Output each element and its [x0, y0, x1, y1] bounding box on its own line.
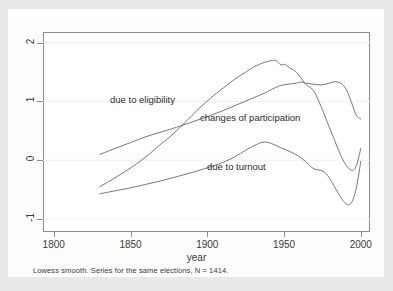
- x-tick-mark: [131, 232, 132, 237]
- curve-due-to-turnout: [100, 142, 361, 205]
- x-tick-label: 1950: [264, 239, 304, 250]
- x-tick-label: 1800: [34, 239, 74, 250]
- y-tick-mark: [37, 160, 43, 161]
- x-tick-label: 1850: [111, 239, 151, 250]
- y-tick-label: -1: [25, 210, 36, 226]
- y-tick-mark: [37, 219, 43, 220]
- chart-curves: [43, 32, 370, 232]
- x-tick-mark: [284, 232, 285, 237]
- y-tick-label: 0: [25, 151, 36, 167]
- figure-container: -1012 18001850190019502000 year due to e…: [0, 0, 393, 291]
- y-tick-label: 2: [25, 33, 36, 49]
- series-label-turnout: due to turnout: [207, 161, 266, 172]
- series-label-eligibility: due to eligibility: [110, 94, 175, 105]
- x-tick-label: 1900: [187, 239, 227, 250]
- y-tick-label: 1: [25, 92, 36, 108]
- x-tick-label: 2000: [341, 239, 381, 250]
- figure-caption: Lowess smooth. Series for the same elect…: [33, 266, 228, 275]
- y-tick-mark: [37, 43, 43, 44]
- x-tick-mark: [54, 232, 55, 237]
- x-tick-mark: [361, 232, 362, 237]
- y-tick-mark: [37, 101, 43, 102]
- x-axis-title: year: [0, 252, 393, 263]
- x-tick-mark: [207, 232, 208, 237]
- series-label-participation: changes of participation: [200, 112, 300, 123]
